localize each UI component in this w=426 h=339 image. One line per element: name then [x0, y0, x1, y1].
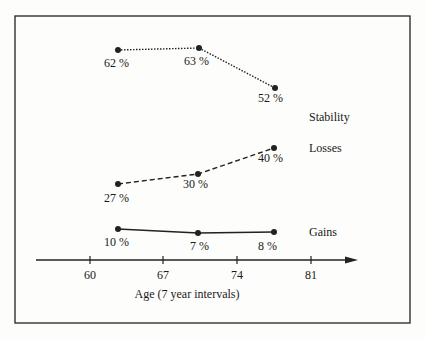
data-point: [115, 226, 121, 232]
x-tick-label: 67: [157, 268, 169, 282]
axis-arrow-icon: [345, 257, 358, 264]
data-point: [195, 230, 201, 236]
value-label: 7 %: [190, 239, 209, 253]
x-axis-label: Age (7 year intervals): [135, 287, 240, 301]
x-tick-label: 60: [84, 268, 96, 282]
value-label: 52 %: [258, 91, 283, 105]
data-point: [115, 181, 121, 187]
value-label: 8 %: [258, 239, 277, 253]
x-tick-label: 74: [231, 268, 243, 282]
data-point: [196, 45, 202, 51]
chart: 62 % 63 % 52 % 27 % 30 % 40 % 10 % 7 % 8…: [0, 0, 426, 339]
legend-gains: Gains: [309, 225, 337, 239]
value-label: 40 %: [258, 151, 283, 165]
legend-losses: Losses: [309, 141, 342, 155]
value-label: 63 %: [184, 54, 209, 68]
value-label: 30 %: [183, 177, 208, 191]
legend-stability: Stability: [309, 110, 350, 124]
chart-frame: [15, 16, 410, 323]
value-label: 10 %: [104, 235, 129, 249]
value-label: 27 %: [104, 191, 129, 205]
value-label: 62 %: [104, 56, 129, 70]
data-point: [115, 47, 121, 53]
x-tick-label: 81: [305, 268, 317, 282]
data-point: [271, 229, 277, 235]
